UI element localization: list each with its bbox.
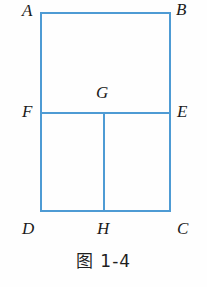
vertex-label-f: F bbox=[22, 103, 32, 120]
vertex-label-d: D bbox=[22, 220, 34, 237]
figure-container: A B F G E D H C 图 1-4 bbox=[0, 0, 207, 287]
figure-caption: 图 1-4 bbox=[0, 250, 207, 272]
diagram-strokes bbox=[41, 13, 170, 211]
vertex-label-e: E bbox=[177, 103, 187, 120]
vertex-label-g: G bbox=[96, 84, 108, 101]
vertex-label-h: H bbox=[97, 220, 109, 237]
vertex-label-c: C bbox=[177, 220, 188, 237]
vertex-label-a: A bbox=[22, 2, 32, 19]
geometry-diagram bbox=[0, 0, 207, 287]
vertex-label-b: B bbox=[176, 1, 186, 18]
